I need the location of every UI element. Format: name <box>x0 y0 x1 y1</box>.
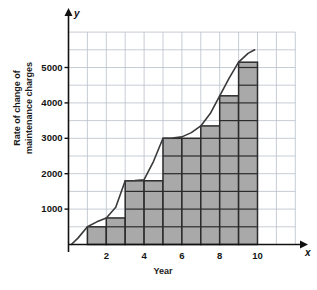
x-tick-label-8: 8 <box>208 250 232 261</box>
y-axis-title-line2: maintenance charges <box>23 38 35 178</box>
x-tick-label-2: 2 <box>94 250 118 261</box>
x-axis-title: Year <box>118 266 208 276</box>
y-axis-variable-label: y <box>74 8 80 19</box>
x-tick-label-10: 10 <box>246 250 270 261</box>
bar-1-2 <box>87 227 106 245</box>
y-tick-label-3000: 3000 <box>31 132 63 143</box>
y-tick-label-1000: 1000 <box>31 203 63 214</box>
y-tick-label-5000: 5000 <box>31 62 63 73</box>
bar-3-4 <box>125 181 144 245</box>
bar-series <box>87 62 257 244</box>
y-axis-title-line1: Rate of change of <box>11 38 23 178</box>
x-tick-label-4: 4 <box>132 250 156 261</box>
bar-2-3 <box>106 218 125 245</box>
bar-4-5 <box>144 181 163 245</box>
x-tick-label-6: 6 <box>170 250 194 261</box>
y-tick-label-2000: 2000 <box>31 168 63 179</box>
bar-8-9 <box>220 96 239 245</box>
y-axis-title: Rate of change of maintenance charges <box>11 38 35 178</box>
y-axis-arrow <box>65 8 73 16</box>
riemann-sum-chart <box>0 0 317 290</box>
bar-9-10 <box>239 62 258 244</box>
x-axis-variable-label: x <box>305 247 311 258</box>
y-tick-label-4000: 4000 <box>31 97 63 108</box>
chart-figure: Rate of change of maintenance charges Ye… <box>0 0 317 290</box>
